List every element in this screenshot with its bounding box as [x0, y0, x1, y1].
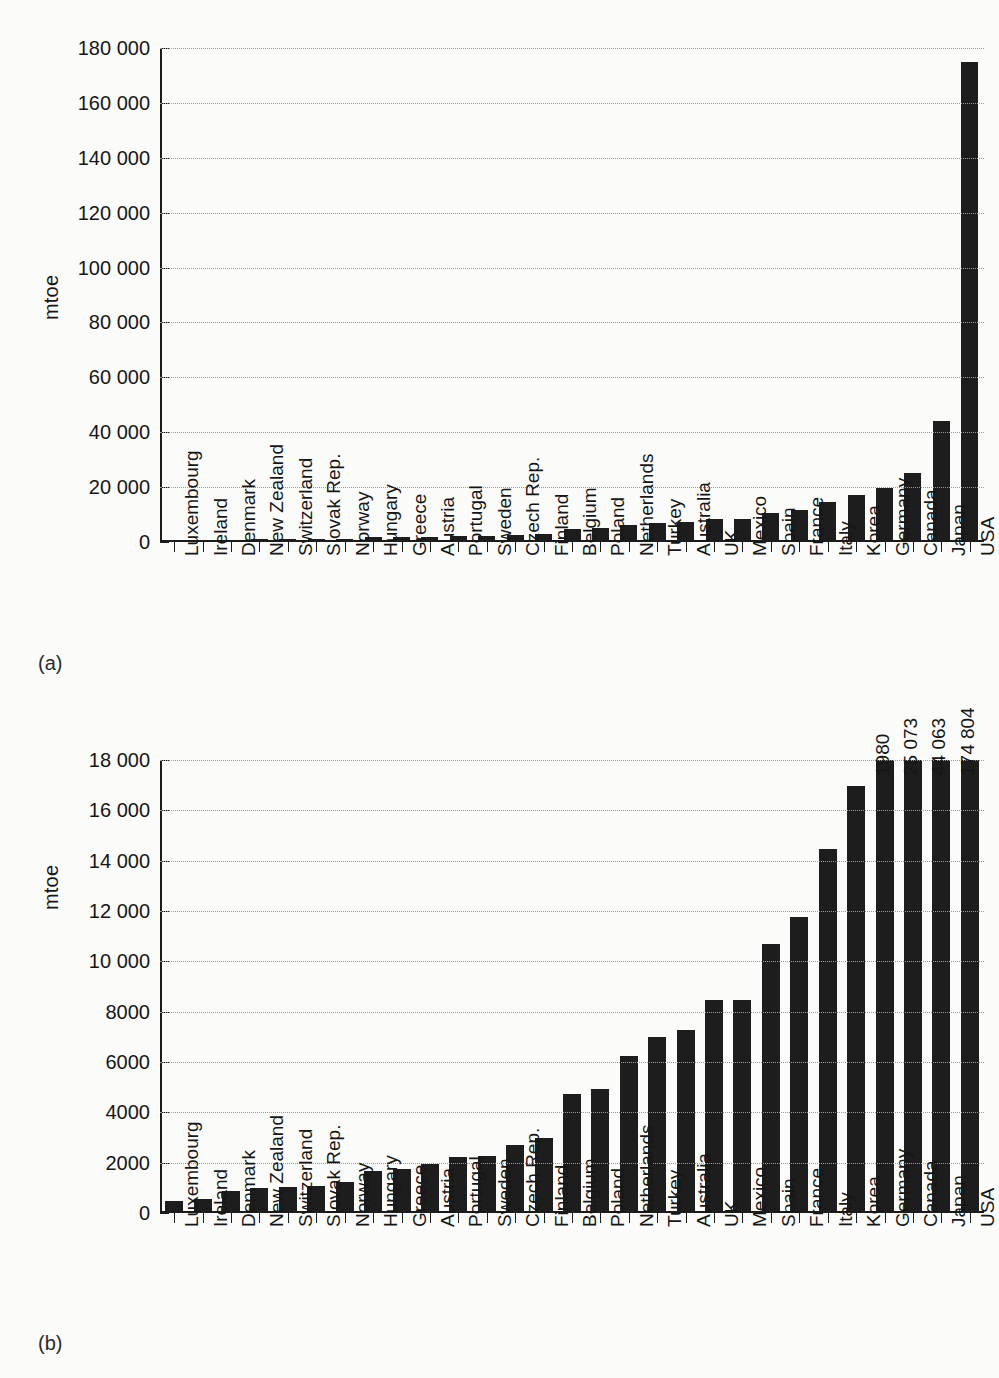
- x-tick-mark: [544, 542, 545, 552]
- x-tick-mark: [629, 1213, 630, 1223]
- x-tick-label: Norway: [352, 1163, 374, 1227]
- x-tick-mark: [941, 542, 942, 552]
- panel-b-x-tick-labels: LuxembourgIrelandDenmarkNew ZealandSwitz…: [0, 690, 992, 1378]
- x-tick-label: Ireland: [210, 498, 232, 556]
- x-tick-label: Luxembourg: [181, 450, 203, 556]
- x-tick-mark: [515, 542, 516, 552]
- x-tick-mark: [430, 1213, 431, 1223]
- x-tick-mark: [544, 1213, 545, 1223]
- x-tick-mark: [572, 542, 573, 552]
- panel-a-x-tick-labels: LuxembourgIrelandDenmarkNew ZealandSwitz…: [0, 0, 992, 690]
- x-tick-mark: [771, 542, 772, 552]
- x-tick-mark: [913, 542, 914, 552]
- x-tick-mark: [458, 542, 459, 552]
- x-tick-mark: [600, 1213, 601, 1223]
- x-tick-label: Netherlands: [636, 1125, 658, 1227]
- x-tick-label: New Zealand: [266, 444, 288, 556]
- x-tick-label: USA: [977, 517, 999, 556]
- x-tick-label: Turkey: [664, 499, 686, 556]
- x-tick-label: Czech Rep.: [522, 1128, 544, 1227]
- x-tick-label: Switzerland: [295, 1129, 317, 1227]
- x-tick-mark: [970, 1213, 971, 1223]
- x-tick-label: Hungary: [380, 1155, 402, 1227]
- x-tick-label: France: [806, 1168, 828, 1227]
- x-tick-label: Austria: [437, 497, 459, 556]
- x-tick-label: Canada: [920, 489, 942, 556]
- x-tick-mark: [742, 542, 743, 552]
- x-tick-label: Denmark: [238, 1150, 260, 1227]
- x-tick-label: Greece: [409, 1165, 431, 1227]
- x-tick-mark: [259, 1213, 260, 1223]
- x-tick-label: Portugal: [465, 485, 487, 556]
- chart-panel-b: mtoe 0200040006000800010 00012 00014 000…: [0, 690, 992, 1378]
- x-tick-mark: [487, 1213, 488, 1223]
- x-tick-mark: [373, 542, 374, 552]
- x-tick-mark: [742, 1213, 743, 1223]
- x-tick-mark: [402, 542, 403, 552]
- x-tick-mark: [629, 542, 630, 552]
- x-tick-label: Greece: [409, 494, 431, 556]
- x-tick-mark: [572, 1213, 573, 1223]
- x-tick-mark: [288, 542, 289, 552]
- x-tick-label: Mexico: [749, 1167, 771, 1227]
- x-tick-mark: [856, 1213, 857, 1223]
- x-tick-mark: [714, 1213, 715, 1223]
- x-tick-label: Japan: [948, 1175, 970, 1227]
- x-tick-mark: [316, 542, 317, 552]
- x-tick-label: Hungary: [380, 484, 402, 556]
- x-tick-label: USA: [977, 1188, 999, 1227]
- x-tick-mark: [515, 1213, 516, 1223]
- x-tick-label: Poland: [607, 1168, 629, 1227]
- x-tick-label: Italy: [835, 521, 857, 556]
- x-tick-label: Austria: [437, 1168, 459, 1227]
- x-tick-mark: [174, 542, 175, 552]
- x-tick-mark: [259, 542, 260, 552]
- x-tick-mark: [828, 542, 829, 552]
- x-tick-label: New Zealand: [266, 1115, 288, 1227]
- x-tick-label: Canada: [920, 1160, 942, 1227]
- x-tick-label: Czech Rep.: [522, 457, 544, 556]
- x-tick-label: Germany: [892, 478, 914, 556]
- x-tick-label: Finland: [551, 1165, 573, 1227]
- x-tick-label: Mexico: [749, 496, 771, 556]
- x-tick-mark: [402, 1213, 403, 1223]
- x-tick-label: Denmark: [238, 479, 260, 556]
- x-tick-label: Spain: [778, 507, 800, 556]
- x-tick-label: Ireland: [210, 1169, 232, 1227]
- panel-a-tag: (a): [38, 652, 62, 675]
- x-tick-mark: [373, 1213, 374, 1223]
- x-tick-label: France: [806, 497, 828, 556]
- x-tick-mark: [771, 1213, 772, 1223]
- x-tick-label: Belgium: [579, 487, 601, 556]
- x-tick-label: Sweden: [494, 1158, 516, 1227]
- x-tick-mark: [856, 542, 857, 552]
- panel-b-tag: (b): [38, 1332, 62, 1355]
- x-tick-mark: [657, 542, 658, 552]
- x-tick-label: Switzerland: [295, 458, 317, 556]
- x-tick-label: Korea: [863, 505, 885, 556]
- x-tick-mark: [231, 1213, 232, 1223]
- x-tick-mark: [657, 1213, 658, 1223]
- x-tick-label: Australia: [693, 1153, 715, 1227]
- x-tick-label: Belgium: [579, 1158, 601, 1227]
- x-tick-mark: [913, 1213, 914, 1223]
- x-tick-mark: [799, 1213, 800, 1223]
- x-tick-mark: [203, 542, 204, 552]
- x-tick-mark: [430, 542, 431, 552]
- x-tick-label: UK: [721, 530, 743, 556]
- x-tick-mark: [288, 1213, 289, 1223]
- x-tick-label: Germany: [892, 1149, 914, 1227]
- x-tick-label: Finland: [551, 494, 573, 556]
- x-tick-mark: [345, 542, 346, 552]
- chart-panel-a: mtoe 020 00040 00060 00080 000100 000120…: [0, 0, 992, 690]
- x-tick-label: Korea: [863, 1176, 885, 1227]
- x-tick-mark: [970, 542, 971, 552]
- x-tick-mark: [714, 542, 715, 552]
- x-tick-label: Australia: [693, 482, 715, 556]
- x-tick-label: Slovak Rep.: [323, 1125, 345, 1227]
- x-tick-label: Spain: [778, 1178, 800, 1227]
- x-tick-label: UK: [721, 1201, 743, 1227]
- x-tick-mark: [316, 1213, 317, 1223]
- x-tick-label: Slovak Rep.: [323, 454, 345, 556]
- x-tick-mark: [458, 1213, 459, 1223]
